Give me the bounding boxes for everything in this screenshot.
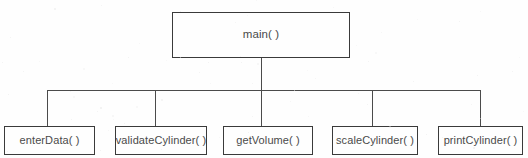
scan-speckle [112, 115, 114, 117]
scan-speckle [100, 107, 102, 109]
scan-speckle [356, 45, 357, 46]
scan-speckle [307, 70, 308, 71]
connector-drop-enterdata [47, 90, 48, 126]
node-enterdata-label: enterData( ) [20, 135, 80, 146]
scan-speckle [100, 150, 101, 151]
node-main[interactable]: main( ) [172, 12, 350, 58]
scan-speckle [71, 119, 72, 120]
node-printcylinder-label: printCylinder( ) [444, 135, 518, 146]
scan-speckle [290, 101, 291, 102]
scan-speckle [308, 116, 309, 117]
connector-horizontal-bus [47, 90, 480, 91]
scan-speckle [519, 57, 520, 58]
scan-speckle [523, 111, 524, 112]
scan-speckle [70, 91, 71, 92]
scan-speckle [413, 81, 414, 82]
scan-speckle [512, 71, 513, 72]
connector-drop-scalecylinder [372, 90, 373, 126]
scan-speckle [375, 52, 377, 54]
node-printcylinder[interactable]: printCylinder( ) [438, 126, 523, 155]
scan-speckle [315, 78, 316, 79]
scan-speckle [113, 119, 114, 120]
scan-speckle [256, 0, 257, 1]
scan-speckle [128, 57, 129, 58]
node-getvolume-label: getVolume( ) [236, 135, 300, 146]
scan-speckle [101, 5, 102, 6]
scan-speckle [97, 111, 98, 112]
scan-speckle [161, 99, 163, 101]
scan-speckle [112, 83, 113, 84]
scan-speckle [136, 106, 138, 108]
scan-speckle [73, 96, 75, 98]
scan-speckle [54, 8, 56, 10]
scan-speckle [241, 62, 242, 63]
scan-speckle [108, 130, 109, 131]
scan-speckle [210, 83, 211, 84]
node-getvolume[interactable]: getVolume( ) [223, 126, 313, 155]
scan-speckle [10, 37, 11, 38]
scan-speckle [368, 61, 369, 62]
scan-speckle [83, 68, 85, 70]
scan-speckle [252, 116, 253, 117]
node-validatecylinder[interactable]: validateCylinder( ) [115, 126, 207, 155]
node-validatecylinder-label: validateCylinder( ) [116, 135, 207, 146]
scan-speckle [426, 134, 427, 135]
scan-speckle [8, 94, 9, 95]
connector-drop-printcylinder [480, 90, 481, 126]
scan-speckle [139, 43, 140, 44]
node-main-label: main( ) [243, 29, 279, 41]
node-scalecylinder-label: scaleCylinder( ) [336, 135, 414, 146]
scan-speckle [381, 32, 382, 33]
scan-speckle [480, 11, 481, 12]
node-enterdata[interactable]: enterData( ) [4, 126, 95, 155]
scan-speckle [2, 62, 3, 63]
scan-speckle [477, 75, 478, 76]
scan-speckle [219, 137, 220, 138]
scan-speckle [417, 19, 418, 20]
scan-speckle [333, 7, 334, 8]
scan-speckle [208, 62, 209, 63]
connector-drop-validatecylinder [155, 90, 156, 126]
scan-speckle [39, 61, 40, 62]
structure-chart-diagram: main( ) enterData( ) validateCylinder( )… [0, 0, 528, 158]
connector-drop-getvolume [261, 90, 262, 126]
scan-speckle [358, 93, 359, 94]
scan-speckle [367, 104, 368, 105]
node-scalecylinder[interactable]: scaleCylinder( ) [332, 126, 418, 155]
scan-speckle [459, 21, 460, 22]
scan-speckle [471, 104, 472, 105]
scan-speckle [257, 63, 259, 65]
scan-speckle [252, 83, 253, 84]
scan-speckle [166, 60, 167, 61]
scan-speckle [199, 72, 200, 73]
scan-speckle [124, 123, 125, 124]
scan-speckle [23, 71, 24, 72]
